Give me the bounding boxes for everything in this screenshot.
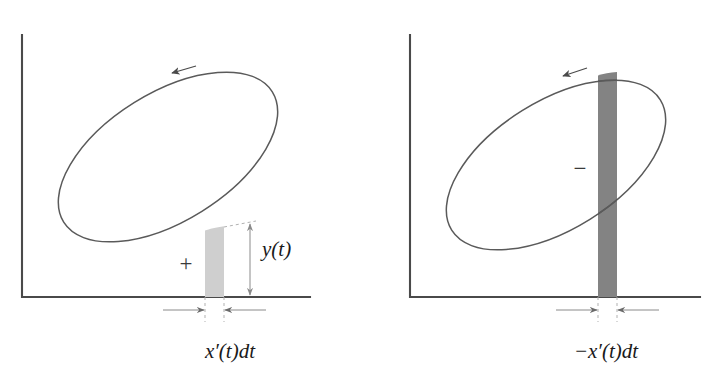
left-panel: + y(t) x′(t)dt [22,35,310,363]
diagram-canvas: + y(t) x′(t)dt [0,0,716,379]
right-orbit-ellipse-overlay [418,46,694,285]
y-of-t-label: y(t) [260,237,291,261]
plus-sign: + [180,251,193,276]
left-strip-group [205,226,224,297]
figure-root: + y(t) x′(t)dt [0,0,716,379]
right-orbit-ellipse [418,46,694,285]
y-of-t-dimension [224,221,256,295]
left-orientation-arrow-icon [172,66,196,73]
minus-x-prime-dt-label: −x′(t)dt [574,339,639,363]
right-strip-group [598,72,617,297]
minus-sign: − [574,156,587,181]
right-panel-axes [410,35,700,297]
x-prime-dt-label: x′(t)dt [204,339,256,363]
right-ellipse-over-strip [418,46,694,285]
x-prime-dt-dimension [163,297,266,322]
right-orientation-arrow-icon [563,68,587,76]
minus-x-prime-dt-dimension [556,297,659,322]
right-panel: − −x′(t)dt [410,35,700,363]
positive-area-strip [205,226,224,297]
negative-area-strip [598,72,617,297]
